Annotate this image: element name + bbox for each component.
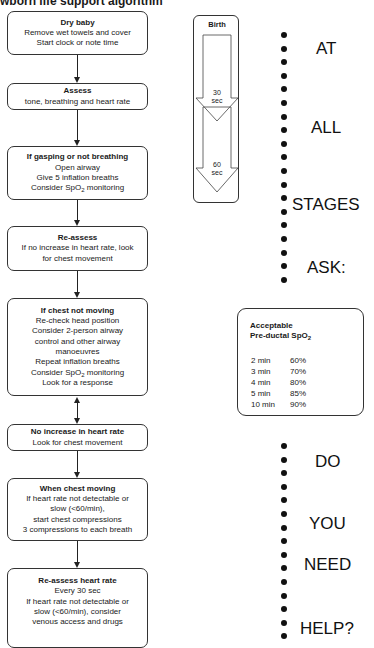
side-word-you: YOU: [309, 514, 346, 534]
dot-marker: [281, 236, 287, 242]
step-heading: If chest not moving: [8, 306, 147, 316]
side-word-help: HELP?: [300, 619, 354, 639]
step-line: control and other airway: [8, 337, 147, 347]
side-word-need: NEED: [304, 555, 351, 575]
spo2-value: 85%: [290, 389, 306, 398]
dot-marker: [281, 86, 287, 92]
step-line: Remove wet towels and cover: [8, 28, 147, 38]
step-line: Re-check head position: [8, 316, 147, 326]
spo2-time: 10 min: [251, 400, 275, 409]
dot-marker: [281, 538, 287, 544]
step-line: If heart rate not detectable or: [8, 494, 147, 504]
side-word-all: ALL: [311, 118, 341, 138]
step-line: If no increase in heart rate, look: [8, 243, 147, 253]
step-line: manoeuvres: [8, 347, 147, 357]
dot-marker: [281, 443, 287, 449]
step-heading: When chest moving: [8, 484, 147, 494]
spo2-time: 4 min: [251, 378, 271, 387]
dot-marker: [281, 195, 287, 201]
step-assess: Assess tone, breathing and heart rate: [7, 83, 148, 110]
dot-marker: [281, 182, 287, 188]
step-no-increase: No increase in heart rate Look for chest…: [7, 424, 148, 451]
dot-marker: [281, 114, 287, 120]
step-chest-not-moving: If chest not moving Re-check head positi…: [7, 298, 148, 396]
dot-marker: [281, 154, 287, 160]
side-word-at: AT: [316, 39, 336, 59]
side-word-stages: STAGES: [292, 195, 360, 215]
dot-marker: [281, 100, 287, 106]
step-line: Look for a response: [8, 378, 147, 388]
spo2-value: 60%: [290, 356, 306, 365]
dot-marker: [281, 73, 287, 79]
dot-marker: [281, 593, 287, 599]
timeline-mark-unit: sec: [194, 169, 240, 177]
timeline-mark-unit: sec: [194, 97, 240, 105]
spo2-heading-line2: Pre-ductal SpO2: [250, 331, 311, 341]
step-line: slow (<60/min), consider: [8, 607, 147, 617]
dot-marker: [281, 277, 287, 283]
step-line: slow (<60/min),: [8, 504, 147, 514]
connector-line: [77, 110, 78, 140]
dot-marker: [281, 141, 287, 147]
step-line: If heart rate not detectable or: [8, 597, 147, 607]
step-dry-baby: Dry baby Remove wet towels and cover Sta…: [7, 11, 148, 55]
step-heading: No increase in heart rate: [8, 427, 147, 437]
dot-marker: [281, 579, 287, 585]
step-line: Give 5 inflation breaths: [8, 173, 147, 183]
timeline-start-label: Birth: [194, 21, 240, 29]
connector-line: [77, 55, 78, 78]
step-heading: If gasping or not breathing: [8, 152, 147, 162]
spo2-targets-table: Acceptable Pre-ductal SpO2 2 min60% 3 mi…: [237, 308, 364, 416]
step-heading: Assess: [8, 86, 147, 96]
dot-marker: [281, 565, 287, 571]
dot-marker: [281, 168, 287, 174]
step-reassess-heart-rate: Re-assess heart rate Every 30 sec If hea…: [7, 568, 148, 648]
step-line: for chest movement: [8, 254, 147, 264]
dot-marker: [281, 59, 287, 65]
dot-marker: [281, 222, 287, 228]
step-gasping: If gasping or not breathing Open airway …: [7, 146, 148, 200]
dot-marker: [281, 32, 287, 38]
spo2-value: 70%: [290, 367, 306, 376]
dot-marker: [281, 511, 287, 517]
spo2-time: 3 min: [251, 367, 271, 376]
dot-marker: [281, 263, 287, 269]
step-reassess: Re-assess If no increase in heart rate, …: [7, 226, 148, 271]
step-line: Start clock or note time: [8, 38, 147, 48]
timeline-mark-value: 60: [194, 161, 240, 169]
step-line: Consider SpO2 monitoring: [8, 368, 147, 378]
step-line: start chest compressions: [8, 515, 147, 525]
connector-line: [77, 541, 78, 562]
dot-marker: [281, 470, 287, 476]
dot-marker: [281, 46, 287, 52]
dot-marker: [281, 250, 287, 256]
spo2-time: 5 min: [251, 389, 271, 398]
connector-line: [77, 402, 78, 418]
birth-timeline: Birth 30 sec 60 sec: [193, 15, 239, 203]
spo2-value: 90%: [290, 400, 306, 409]
dot-marker: [281, 457, 287, 463]
step-heading: Dry baby: [8, 18, 147, 28]
dot-marker: [281, 620, 287, 626]
step-line: Repeat inflation breaths: [8, 357, 147, 367]
step-line: tone, breathing and heart rate: [8, 97, 147, 107]
connector-line: [77, 451, 78, 472]
dot-marker: [281, 552, 287, 558]
step-line: Look for chest movement: [8, 438, 147, 448]
step-line: venous access and drugs: [8, 617, 147, 627]
dot-marker: [281, 606, 287, 612]
connector-line: [77, 200, 78, 220]
step-chest-moving: When chest moving If heart rate not dete…: [7, 478, 148, 541]
spo2-heading: Acceptable Pre-ductal SpO2: [250, 321, 311, 341]
page-title: wborn life support algorithm: [0, 0, 163, 8]
step-line: Consider SpO2 monitoring: [8, 183, 147, 193]
dot-marker: [281, 209, 287, 215]
step-line: 3 compressions to each breath: [8, 525, 147, 535]
side-word-ask: ASK:: [307, 258, 346, 278]
dot-marker: [281, 633, 287, 639]
side-word-do: DO: [315, 452, 341, 472]
spo2-heading-line1: Acceptable: [250, 321, 311, 331]
dot-marker: [281, 525, 287, 531]
timeline-mark-value: 30: [194, 89, 240, 97]
connector-line: [77, 271, 78, 292]
